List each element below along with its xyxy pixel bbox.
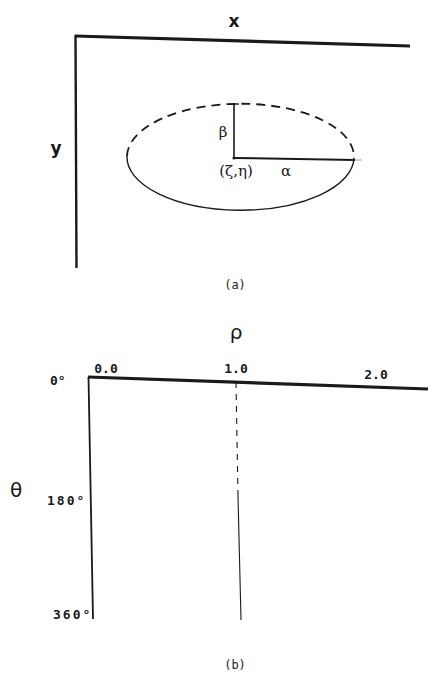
x-tick-0: 0.0: [94, 361, 118, 376]
ellipse-upper-dashed: [127, 104, 354, 158]
panel-a: x y β (ζ,η) α (a): [50, 11, 410, 292]
panel-a-x-axis: [75, 36, 410, 46]
semi-major-label: α: [281, 162, 291, 180]
panel-a-x-label: x: [229, 11, 240, 31]
panel-a-y-label: y: [50, 138, 61, 158]
panel-b-x-label: ρ: [230, 320, 243, 344]
panel-b-y-label: θ: [10, 478, 22, 502]
semi-major-axis-line: [234, 158, 355, 160]
panel-b-caption: (b): [224, 658, 246, 672]
panel-b-theta-axis: [89, 377, 94, 619]
y-tick-0: 0°: [50, 373, 66, 388]
x-tick-2: 2.0: [364, 367, 388, 382]
center-label: (ζ,η): [219, 162, 253, 180]
rho-1-reference-dashed: [236, 382, 238, 496]
panel-b: ρ 0.0 1.0 2.0 0° 180° 360° θ (b): [10, 320, 428, 672]
y-tick-360: 360°: [53, 607, 92, 622]
panel-a-y-axis: [76, 35, 77, 268]
x-tick-1: 1.0: [224, 361, 248, 376]
semi-minor-label: β: [219, 123, 228, 141]
rho-1-reference-solid: [238, 496, 241, 620]
ellipse-center-point: [232, 156, 235, 159]
y-tick-180: 180°: [47, 493, 86, 508]
panel-a-caption: (a): [224, 278, 246, 292]
figure: x y β (ζ,η) α (a) ρ 0.0 1.0 2.0 0° 180: [0, 0, 447, 688]
